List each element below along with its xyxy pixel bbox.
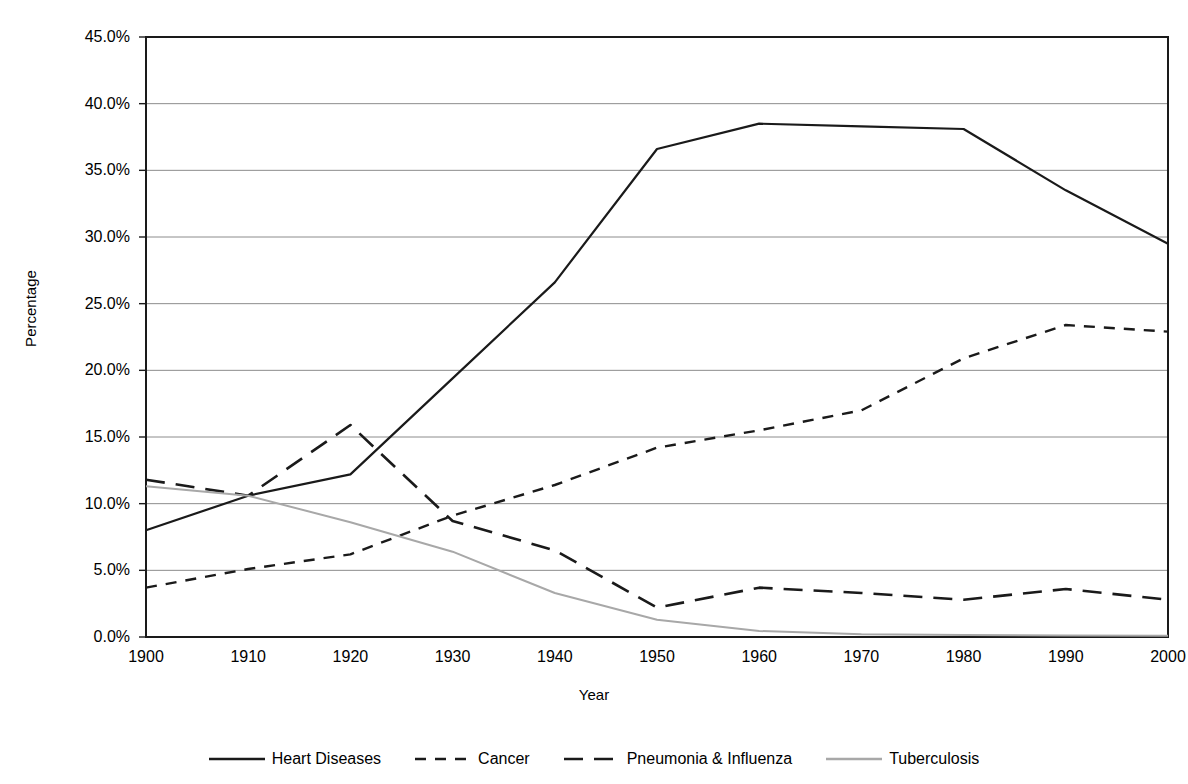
chart-root: 0.0%5.0%10.0%15.0%20.0%25.0%30.0%35.0%40… (0, 0, 1188, 784)
y-axis-title: Percentage (22, 239, 39, 379)
legend-item: Tuberculosis (826, 751, 979, 767)
legend-item: Cancer (415, 751, 530, 767)
legend-swatch-dashed-long (564, 753, 620, 765)
x-axis-tick-labels: 1900191019201930194019501960197019801990… (0, 0, 1188, 784)
legend-label: Heart Diseases (272, 751, 381, 767)
x-tick-label: 1980 (946, 648, 982, 666)
legend-label: Tuberculosis (889, 751, 979, 767)
legend-label: Pneumonia & Influenza (627, 751, 792, 767)
x-tick-label: 2000 (1150, 648, 1186, 666)
x-axis-title: Year (0, 686, 1188, 703)
x-tick-label: 1910 (230, 648, 266, 666)
x-tick-label: 1990 (1048, 648, 1084, 666)
x-tick-label: 1920 (333, 648, 369, 666)
legend-swatch-solid (209, 753, 265, 765)
x-tick-label: 1970 (844, 648, 880, 666)
legend-swatch-dashed-short (415, 753, 471, 765)
x-tick-label: 1940 (537, 648, 573, 666)
legend-label: Cancer (478, 751, 530, 767)
legend-item: Pneumonia & Influenza (564, 751, 792, 767)
x-tick-label: 1960 (741, 648, 777, 666)
legend-swatch-solid (826, 753, 882, 765)
chart-legend: Heart DiseasesCancerPneumonia & Influenz… (0, 744, 1188, 774)
x-tick-label: 1900 (128, 648, 164, 666)
x-tick-label: 1950 (639, 648, 675, 666)
x-tick-label: 1930 (435, 648, 471, 666)
legend-item: Heart Diseases (209, 751, 381, 767)
